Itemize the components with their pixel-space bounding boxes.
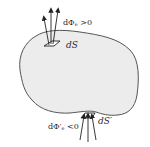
inward-flux-arrows [80,115,96,142]
ds-label: dS [66,41,78,50]
flux-negative-label: dΦ′e <0 [48,123,79,131]
flux-positive-label: dΦe >0 [63,19,92,27]
closed-surface [20,30,139,115]
ds-prime-label: dS′ [98,117,112,126]
